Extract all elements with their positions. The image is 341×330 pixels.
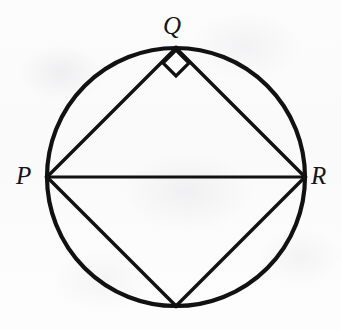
vertex-node-P [45, 175, 50, 180]
vertex-node-S [174, 304, 179, 309]
vertex-node-R [303, 175, 308, 180]
geometry-figure: P Q R [0, 0, 341, 330]
vertex-label-R: R [311, 163, 326, 188]
diagram-canvas [0, 0, 341, 330]
right-angle-marker-at-Q [163, 50, 189, 76]
vertex-label-P: P [16, 163, 31, 188]
vertex-node-Q [174, 46, 179, 51]
vertex-label-Q: Q [163, 13, 181, 38]
